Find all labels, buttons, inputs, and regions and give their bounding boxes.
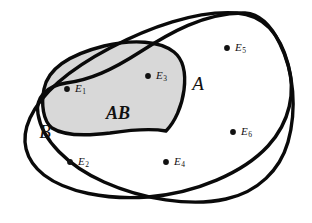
element-label-subscript: 6 [248, 130, 252, 139]
element-label-base: E [173, 155, 181, 167]
element-dot [230, 129, 236, 135]
element-label-subscript: 3 [163, 74, 167, 83]
element-label-subscript: 5 [242, 46, 246, 55]
venn-diagram-canvas: A B AB E1E2E3E4E5E6 [0, 0, 312, 223]
element-label-base: E [155, 69, 163, 81]
element-label-base: E [77, 155, 85, 167]
set-a-label: A [190, 73, 204, 94]
element-label-base: E [74, 82, 82, 94]
element-dot [224, 45, 230, 51]
set-b-label: B [39, 121, 51, 142]
venn-diagram-figure: A B AB E1E2E3E4E5E6 [0, 0, 312, 223]
element-label-base: E [234, 41, 242, 53]
element-dot [163, 159, 169, 165]
element-label-base: E [240, 125, 248, 137]
element-dot [64, 86, 70, 92]
element-label-subscript: 4 [181, 160, 185, 169]
element-dot [145, 73, 151, 79]
intersection-label: AB [105, 103, 130, 123]
element-label-subscript: 1 [82, 87, 86, 96]
element-label-subscript: 2 [85, 160, 89, 169]
element-dot [67, 159, 73, 165]
